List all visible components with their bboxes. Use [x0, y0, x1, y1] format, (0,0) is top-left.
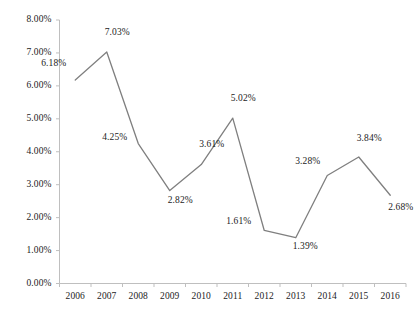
data-point-label: 3.28%	[295, 156, 320, 166]
x-axis-tick-label: 2013	[280, 291, 312, 301]
y-axis-tick-label: 0.00%	[0, 278, 52, 288]
x-axis-tick-label: 2006	[60, 291, 92, 301]
x-axis-tick-label: 2015	[343, 291, 375, 301]
y-axis-tick-label: 6.00%	[0, 80, 52, 90]
x-axis-tick-label: 2012	[249, 291, 281, 301]
data-point-label: 2.82%	[168, 195, 193, 205]
x-axis-tick-label: 2016	[375, 291, 407, 301]
data-point-label: 7.03%	[105, 27, 130, 37]
y-axis-tick-label: 8.00%	[0, 14, 52, 24]
x-axis-tick-label: 2010	[186, 291, 218, 301]
data-point-label: 1.61%	[226, 216, 251, 226]
y-axis-tick-label: 4.00%	[0, 146, 52, 156]
data-point-label: 6.18%	[41, 58, 66, 68]
data-point-label: 4.25%	[102, 132, 127, 142]
x-axis-tick-label: 2014	[312, 291, 344, 301]
y-axis-tick-label: 7.00%	[0, 47, 52, 57]
chart-canvas	[0, 0, 418, 315]
x-axis-tick-label: 2008	[123, 291, 155, 301]
data-point-label: 3.84%	[357, 133, 382, 143]
y-axis-tick-label: 5.00%	[0, 113, 52, 123]
x-axis-ticks	[60, 284, 407, 288]
data-point-label: 2.68%	[388, 202, 413, 212]
line-chart: 0.00%1.00%2.00%3.00%4.00%5.00%6.00%7.00%…	[0, 0, 418, 315]
x-axis-tick-label: 2011	[217, 291, 249, 301]
y-axis-tick-label: 3.00%	[0, 179, 52, 189]
y-axis-tick-label: 1.00%	[0, 245, 52, 255]
data-point-label: 5.02%	[231, 93, 256, 103]
axes	[56, 20, 406, 287]
data-series	[75, 52, 390, 238]
y-axis-tick-label: 2.00%	[0, 212, 52, 222]
x-axis-tick-label: 2007	[91, 291, 123, 301]
x-axis-tick-label: 2009	[154, 291, 186, 301]
series-line-path	[75, 52, 390, 238]
data-point-label: 3.61%	[199, 139, 224, 149]
data-point-label: 1.39%	[293, 241, 318, 251]
